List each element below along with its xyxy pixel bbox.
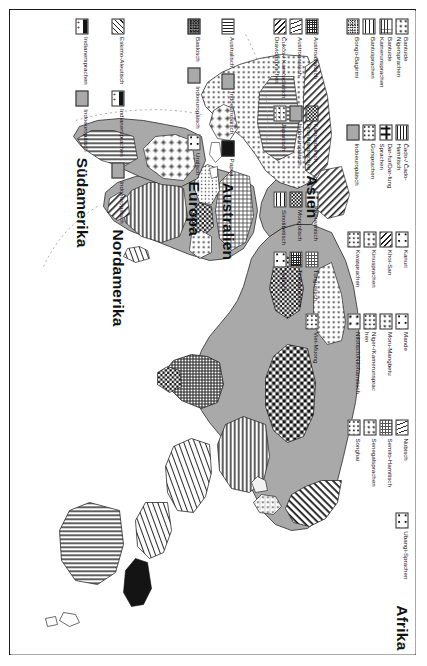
legend-entry: Gursprachen: [362, 124, 376, 224]
legend-swatch-icon: [289, 251, 302, 267]
legend-entry: Indianersprachen: [75, 18, 89, 84]
legend-swatch-icon: [379, 419, 392, 435]
legend-entry-label: Nubisch: [402, 438, 409, 460]
legend-entry-label: Baskisch: [194, 37, 201, 62]
legend-nordamerika-title: Nordamerika: [110, 229, 126, 326]
legend-swatch-icon: [379, 231, 392, 247]
legend-swatch-icon: [75, 90, 88, 106]
legend-swatch-icon: [187, 67, 200, 83]
legend-entry: Türksprachen: [289, 251, 303, 307]
legend-swatch-icon: [289, 105, 302, 121]
legend-australien-title: Australien: [220, 182, 236, 260]
legend-swatch-icon: [379, 124, 392, 140]
legend-entry: Papua: [221, 140, 235, 176]
legend-entry-label: Mongolisch: [296, 210, 303, 241]
legend-entry: Sinotibetisch: [273, 191, 287, 245]
legend-entry: Čukčo-/ Kamčadalisch Dravidasprachen: [273, 18, 287, 99]
legend-suedamerika-title: Südamerika: [74, 157, 90, 247]
legend-entry: Eskimo-Aleutisch: [111, 18, 125, 84]
legend-nordamerika-entries: Eskimo-AleutischIndianersprachenIndoeuro…: [107, 18, 125, 229]
legend-swatch-icon: [305, 18, 318, 34]
legend-entry: Kinusprachen: [363, 231, 377, 307]
legend-swatch-icon: [363, 419, 376, 435]
legend-entry-label: Eskimo-Aleutisch: [118, 37, 125, 84]
legend-swatch-icon: [187, 18, 200, 34]
legend-entry: Nilotisch/Nilohamitisch: [347, 313, 361, 413]
legend-europa: BaskischIndoeuropäischUralisch Europa: [182, 18, 202, 236]
legend-entry: Indoeuropäisch: [289, 105, 303, 186]
legend-swatch-icon: [395, 313, 408, 329]
legend-entry-label: Japanisch: [279, 123, 286, 151]
legend-entry-label: Indianersprachen: [118, 108, 125, 156]
legend-suedamerika-entries: IndianersprachenIndoeuropäisch: [71, 18, 89, 157]
legend-entry: Austroasiatisch: [305, 18, 319, 99]
legend-entry: Kanuri: [395, 231, 409, 307]
legend-swatch-icon: [363, 313, 376, 329]
legend-swatch-icon: [346, 124, 359, 140]
legend-entry-label: Moru-Mangbetu: [386, 332, 393, 376]
legend-entry: Austronesisch: [289, 18, 303, 99]
legend-entry: Indoeuropäisch: [75, 90, 89, 151]
legend-entry-label: Semito-Hamitisch: [386, 438, 393, 486]
legend-entry: Uralisch: [187, 134, 201, 175]
legend-swatch-icon: [111, 162, 124, 178]
legend-entry-label: Tungusisch: [312, 269, 319, 300]
legend-swatch-icon: [289, 18, 302, 34]
legend-entry-label: Nilotisch/Nilohamitisch: [353, 332, 360, 394]
legend-swatch-icon: [289, 191, 302, 207]
poster-frame: Bantuide NigersprachenBantuide Kamerunsp…: [9, 9, 416, 655]
legend-suedamerika: IndianersprachenIndoeuropäisch Südamerik…: [70, 18, 90, 247]
legend-entry-label: Mande: [402, 332, 409, 351]
legend-entry: Songhai: [347, 419, 361, 506]
legend-entry: Indianersprachen: [111, 90, 125, 156]
legend-entry: Mande: [395, 313, 409, 413]
poster-page: Bantuide NigersprachenBantuide Kamerunsp…: [0, 0, 427, 666]
legend-swatch-icon: [305, 105, 318, 121]
legend-swatch-icon: [363, 231, 376, 247]
legend-entry-label: Indoeuropäisch: [295, 123, 302, 165]
legend-nordamerika: Eskimo-AleutischIndianersprachenIndoeuro…: [106, 18, 126, 326]
legend-entry: Mongolisch: [289, 191, 303, 245]
legend-entry: Čado-/ Čado-Hamitisch: [395, 124, 409, 224]
legend-entry-label: Niger-/Kamerunsprachen: [363, 332, 377, 394]
legend-swatch-icon: [221, 18, 234, 34]
legend-entry-label: Viet-Muong: [312, 331, 319, 363]
legend-entry: Bongo-Bagirmi: [346, 18, 360, 118]
legend-entry: Moru-Mangbetu: [379, 313, 393, 413]
legend-entry-label: Bantusprachen: [369, 37, 376, 79]
legend-swatch-icon: [379, 18, 392, 34]
legend-entry-label: Türksprachen: [296, 269, 303, 307]
legend-entry-label: Bongo-Bagirmi: [353, 37, 360, 78]
legend-europa-title: Europa: [186, 181, 202, 236]
legend-entry-label: Australisch: [228, 37, 235, 67]
legend-entry-label: Čado-/ Čado-Hamitisch: [395, 143, 409, 205]
legend-entry: Bantusprachen: [362, 18, 376, 118]
legend-afrika-title: Afrika: [394, 605, 410, 650]
legend-entry: Semito-Hamitisch: [379, 419, 393, 506]
legend-entry-label: Sinotibetisch: [280, 210, 287, 245]
legend-entry-label: Indoeuropäisch: [82, 109, 89, 151]
legend-entry-label: Dar-fur/Dar-fung Sprachen: [378, 143, 392, 205]
legend-swatch-icon: [111, 18, 124, 34]
legend-entry-label: Kinusprachen: [370, 249, 377, 287]
legend-entry: Tungusisch: [305, 251, 319, 307]
legend-entry: Khoi-San: [379, 231, 393, 307]
legend-entry-label: Bantuide Kamerunsprachen: [378, 37, 392, 99]
legend-entry: Kamčadalisch Dravidasprachen: [305, 105, 319, 186]
legend-entry-label: Kwasprachen: [354, 249, 361, 287]
legend-entry: Indoeuropäisch: [187, 67, 201, 128]
legend-entry: Japanisch: [273, 105, 287, 186]
legend-swatch-icon: [221, 73, 234, 89]
legend-swatch-icon: [273, 191, 286, 207]
legend-swatch-icon: [395, 124, 408, 140]
legend-swatch-icon: [305, 313, 318, 329]
legend-swatch-icon: [395, 18, 408, 34]
legend-entry: Niger-/Kamerunsprachen: [363, 313, 377, 413]
legend-swatch-icon: [347, 419, 360, 435]
legend-entry-label: Indoeuropäisch: [228, 91, 235, 133]
legend-entry-label: Khoi-San: [386, 249, 393, 274]
legend-swatch-icon: [75, 18, 88, 34]
legend-entry: Australisch: [221, 18, 235, 67]
legend-swatch-icon: [362, 124, 375, 140]
legend-asien-entries: AustroasiatischAustronesischČukčo-/ Kamč…: [261, 18, 319, 175]
